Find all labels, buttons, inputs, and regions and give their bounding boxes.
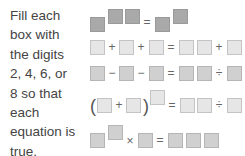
equals-sign: = <box>141 15 153 30</box>
plus-sign: + <box>213 40 225 55</box>
answer-box[interactable] <box>168 133 183 148</box>
plus-sign: + <box>113 98 125 113</box>
answer-box[interactable] <box>197 98 212 113</box>
divide-sign: ÷ <box>213 98 225 113</box>
answer-box[interactable] <box>227 66 242 81</box>
answer-box[interactable] <box>108 9 123 24</box>
answer-box[interactable] <box>90 66 105 81</box>
answer-box[interactable] <box>204 133 219 148</box>
answer-box[interactable] <box>126 98 141 113</box>
answer-box[interactable] <box>186 133 201 148</box>
answer-box[interactable] <box>90 133 105 148</box>
answer-box[interactable] <box>179 40 194 55</box>
answer-box[interactable] <box>227 40 242 55</box>
answer-box[interactable] <box>119 66 134 81</box>
minus-sign: − <box>135 66 147 81</box>
answer-box[interactable] <box>179 66 194 81</box>
answer-box[interactable] <box>150 90 165 105</box>
answer-box[interactable] <box>125 9 140 24</box>
plus-sign: + <box>135 40 147 55</box>
answer-box[interactable] <box>149 66 164 81</box>
equals-sign: = <box>154 133 166 148</box>
instructions-text: Fill each box with the digits 2, 4, 6, o… <box>10 6 76 156</box>
answer-box[interactable] <box>90 17 105 32</box>
answer-box[interactable] <box>155 17 170 32</box>
answer-box[interactable] <box>138 133 153 148</box>
answer-box[interactable] <box>197 66 212 81</box>
answer-box[interactable] <box>119 40 134 55</box>
minus-sign: − <box>106 66 118 81</box>
answer-box[interactable] <box>97 98 112 113</box>
equals-sign: = <box>165 40 177 55</box>
times-sign: × <box>124 134 136 149</box>
answer-box[interactable] <box>227 98 242 113</box>
answer-box[interactable] <box>90 40 105 55</box>
answer-box[interactable] <box>180 98 195 113</box>
equals-sign: = <box>165 66 177 81</box>
left-paren: ( <box>90 97 96 115</box>
equals-sign: = <box>166 98 178 113</box>
divide-sign: ÷ <box>213 66 225 81</box>
plus-sign: + <box>106 40 118 55</box>
answer-box[interactable] <box>197 40 212 55</box>
answer-box[interactable] <box>173 9 188 24</box>
answer-box[interactable] <box>108 125 123 140</box>
right-paren: ) <box>143 97 149 115</box>
answer-box[interactable] <box>149 40 164 55</box>
